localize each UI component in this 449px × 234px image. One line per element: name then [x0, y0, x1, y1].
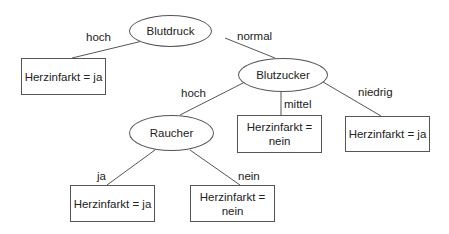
- node-blutdruck-label: Blutdruck: [147, 24, 195, 38]
- edge-r-ja: [107, 150, 155, 185]
- edge-label-normal: normal: [237, 30, 272, 42]
- node-raucher: Raucher: [129, 115, 214, 151]
- node-blutdruck: Blutdruck: [129, 15, 212, 47]
- edge-label-hoch-1: hoch: [86, 31, 111, 43]
- leaf-hoch-herzinfarkt-ja: Herzinfarkt = ja: [21, 58, 106, 95]
- leaf-hoch-label: Herzinfarkt = ja: [25, 70, 103, 84]
- edge-label-niedrig: niedrig: [358, 86, 393, 98]
- edge-label-hoch-2: hoch: [181, 87, 206, 99]
- leaf-ja-label: Herzinfarkt = ja: [74, 197, 152, 211]
- leaf-ja-herzinfarkt-ja: Herzinfarkt = ja: [70, 185, 155, 222]
- node-blutzucker: Blutzucker: [238, 58, 328, 92]
- edge-label-mittel: mittel: [284, 98, 311, 110]
- edge-r-nein: [190, 150, 240, 185]
- leaf-niedrig-herzinfarkt-ja: Herzinfarkt = ja: [345, 116, 430, 152]
- leaf-niedrig-label: Herzinfarkt = ja: [349, 127, 427, 141]
- leaf-mittel-herzinfarkt-nein: Herzinfarkt = nein: [237, 115, 322, 153]
- edge-label-nein: nein: [238, 170, 260, 182]
- leaf-mittel-label: Herzinfarkt = nein: [244, 120, 315, 148]
- edge-label-ja: ja: [97, 170, 106, 182]
- leaf-nein-label: Herzinfarkt = nein: [197, 190, 268, 218]
- node-blutzucker-label: Blutzucker: [256, 68, 310, 82]
- leaf-nein-herzinfarkt-nein: Herzinfarkt = nein: [190, 185, 275, 222]
- node-raucher-label: Raucher: [150, 126, 193, 140]
